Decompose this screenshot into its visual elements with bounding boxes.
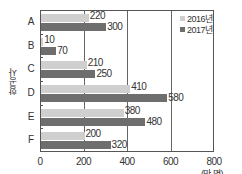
- value-label-E-2017년: 480: [146, 117, 161, 127]
- value-label-D-2016년: 410: [131, 82, 146, 92]
- y-tick: [40, 128, 43, 129]
- gridline-200: [84, 11, 85, 151]
- bar-F-2017년: [41, 141, 111, 149]
- category-label-E: E: [26, 111, 36, 122]
- y-axis-label: 항공사: [6, 68, 19, 95]
- category-label-B: B: [26, 40, 36, 51]
- x-tick-label-200: 200: [76, 156, 91, 167]
- value-label-B-2017년: 70: [57, 46, 67, 56]
- category-label-F: F: [26, 134, 36, 145]
- x-tick-label-600: 600: [163, 156, 178, 167]
- bar-D-2016년: [41, 85, 130, 93]
- legend-item-2017: 2017년: [180, 24, 213, 35]
- y-tick: [40, 34, 43, 35]
- bar-B-2017년: [41, 47, 56, 55]
- bar-C-2016년: [41, 61, 87, 69]
- legend-swatch-2016-icon: [180, 16, 185, 21]
- bar-E-2017년: [41, 118, 145, 126]
- bar-F-2016년: [41, 132, 85, 140]
- x-axis-unit-label: (만 명): [201, 167, 223, 174]
- x-tick-label-800: 800: [206, 156, 221, 167]
- category-label-A: A: [26, 16, 36, 27]
- x-tick-label-400: 400: [119, 156, 134, 167]
- bar-B-2016년: [41, 38, 43, 46]
- legend-label-2017: 2017년: [187, 23, 213, 36]
- bar-C-2017년: [41, 70, 95, 78]
- bar-D-2017년: [41, 94, 167, 102]
- value-label-F-2017년: 320: [112, 140, 127, 150]
- y-tick: [40, 81, 43, 82]
- y-tick: [40, 57, 43, 58]
- category-label-C: C: [26, 63, 36, 74]
- x-tick-label-0: 0: [37, 156, 42, 167]
- bar-A-2016년: [41, 14, 89, 22]
- gridline-400: [127, 11, 128, 151]
- y-tick: [40, 105, 43, 106]
- bar-E-2016년: [41, 109, 124, 117]
- value-label-F-2016년: 200: [86, 129, 101, 139]
- gridline-600: [171, 11, 172, 151]
- value-label-C-2016년: 210: [88, 58, 103, 68]
- bar-A-2017년: [41, 23, 106, 31]
- category-label-D: D: [26, 87, 36, 98]
- legend-swatch-2017-icon: [180, 27, 185, 32]
- legend: 2016년 2017년: [180, 13, 213, 35]
- value-label-A-2016년: 220: [90, 11, 105, 21]
- value-label-D-2017년: 580: [168, 93, 183, 103]
- value-label-E-2016년: 380: [125, 106, 140, 116]
- value-label-A-2017년: 300: [107, 22, 122, 32]
- value-label-C-2017년: 250: [96, 69, 111, 79]
- value-label-B-2016년: 10: [44, 35, 54, 45]
